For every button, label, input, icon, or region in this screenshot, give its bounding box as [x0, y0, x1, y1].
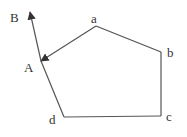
label-A: A	[24, 60, 34, 75]
edge-a-b	[96, 26, 161, 52]
edge-a-A	[41, 26, 96, 61]
edge-A-B	[30, 12, 41, 61]
label-d: d	[49, 112, 56, 127]
labels: abcdAB	[10, 10, 174, 127]
edge-d-A	[41, 61, 64, 117]
edge-c-d	[64, 116, 161, 117]
label-B: B	[10, 10, 19, 25]
label-a: a	[91, 11, 97, 26]
label-c: c	[166, 109, 172, 124]
diagram-canvas: abcdAB	[0, 0, 187, 137]
label-b: b	[167, 45, 174, 60]
edges	[30, 12, 161, 117]
